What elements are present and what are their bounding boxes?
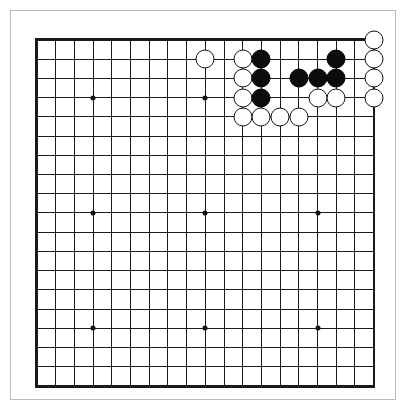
white-stone[interactable] <box>196 50 215 69</box>
black-stone[interactable] <box>327 50 346 69</box>
white-stone[interactable] <box>364 88 383 107</box>
hoshi-point <box>315 210 320 215</box>
black-stone[interactable] <box>289 69 308 88</box>
white-stone[interactable] <box>233 50 252 69</box>
white-stone[interactable] <box>233 107 252 126</box>
board-line-vertical-6 <box>130 40 131 386</box>
hoshi-point <box>203 95 208 100</box>
white-stone[interactable] <box>271 107 290 126</box>
white-stone[interactable] <box>308 88 327 107</box>
board-line-vertical-8 <box>167 40 168 386</box>
black-stone[interactable] <box>327 69 346 88</box>
black-stone[interactable] <box>308 69 327 88</box>
board-line-vertical-2 <box>55 40 56 386</box>
board-line-vertical-9 <box>186 40 187 386</box>
board-line-vertical-7 <box>149 40 150 386</box>
white-stone[interactable] <box>252 107 271 126</box>
board-line-vertical-5 <box>111 40 112 386</box>
board-line-vertical-3 <box>74 40 75 386</box>
board-line-vertical-1 <box>36 40 38 386</box>
white-stone[interactable] <box>364 50 383 69</box>
go-board[interactable] <box>0 0 408 420</box>
black-stone[interactable] <box>252 69 271 88</box>
white-stone[interactable] <box>364 31 383 50</box>
screenshot-root <box>0 0 408 420</box>
board-line-vertical-15 <box>298 40 299 386</box>
hoshi-point <box>91 95 96 100</box>
white-stone[interactable] <box>289 107 308 126</box>
black-stone[interactable] <box>252 88 271 107</box>
white-stone[interactable] <box>233 69 252 88</box>
hoshi-point <box>315 326 320 331</box>
hoshi-point <box>91 326 96 331</box>
board-line-vertical-14 <box>280 40 281 386</box>
white-stone[interactable] <box>364 69 383 88</box>
white-stone[interactable] <box>233 88 252 107</box>
hoshi-point <box>91 210 96 215</box>
hoshi-point <box>203 210 208 215</box>
board-line-vertical-18 <box>354 40 355 386</box>
board-line-vertical-11 <box>224 40 225 386</box>
black-stone[interactable] <box>252 50 271 69</box>
white-stone[interactable] <box>327 88 346 107</box>
hoshi-point <box>203 326 208 331</box>
